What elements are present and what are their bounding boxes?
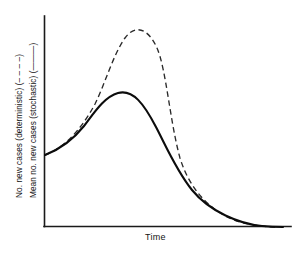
series-group (45, 30, 283, 227)
plot-area (0, 0, 303, 255)
series-line-deterministic (45, 30, 277, 227)
axes-group (44, 16, 291, 227)
series-line-stochastic (45, 92, 283, 227)
chart-figure: No. new cases (deterministic) (– – – –) … (0, 0, 303, 255)
